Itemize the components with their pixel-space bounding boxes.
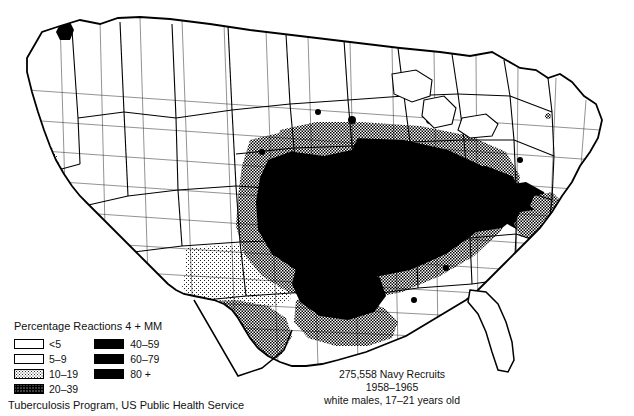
legend-label-80plus: 80 + (130, 368, 151, 380)
legend-column-left: <5 5–9 10–19 20–39 (14, 337, 78, 395)
legend-label-60-79: 60–79 (130, 353, 159, 365)
recruit-caption: 275,558 Navy Recruits 1958–1965 white ma… (272, 368, 512, 407)
legend-swatch-60-79 (94, 354, 124, 364)
recruit-caption-line-2: 1958–1965 (272, 381, 512, 394)
legend-item-20-39: 20–39 (14, 382, 78, 395)
legend-item-lt5: <5 (14, 337, 78, 350)
county-spot-alabama (411, 297, 417, 303)
recruit-caption-line-1: 275,558 Navy Recruits (272, 368, 512, 381)
legend-swatch-10-19 (14, 369, 44, 379)
county-spot-georgia (443, 265, 449, 271)
county-spot-new-york (545, 113, 551, 119)
legend-swatch-40-59 (94, 339, 124, 349)
legend-heading: Percentage Reactions 4 + MM (14, 320, 204, 332)
legend: Percentage Reactions 4 + MM <5 5–9 10–19 (14, 320, 204, 395)
histoplasmin-map-page: HISTOPLASMIN H–42 1:100 (0, 0, 634, 416)
legend-swatch-20-39 (14, 384, 44, 394)
legend-item-40-59: 40–59 (94, 337, 159, 350)
source-attribution: Tuberculosis Program, US Public Health S… (8, 399, 244, 411)
county-spot-carolina (462, 252, 470, 260)
legend-swatch-80plus (94, 369, 124, 379)
legend-item-10-19: 10–19 (14, 367, 78, 380)
county-spot-pennsylvania (517, 157, 523, 163)
county-spot-minnesota (315, 109, 321, 115)
legend-label-lt5: <5 (49, 338, 61, 350)
legend-item-5-9: 5–9 (14, 352, 78, 365)
legend-label-20-39: 20–39 (49, 383, 78, 395)
legend-item-60-79: 60–79 (94, 352, 159, 365)
legend-item-80plus: 80 + (94, 367, 159, 380)
legend-label-40-59: 40–59 (130, 338, 159, 350)
legend-swatch-lt5 (14, 339, 44, 349)
legend-label-10-19: 10–19 (49, 368, 78, 380)
recruit-caption-line-3: white males, 17–21 years old (272, 394, 512, 407)
legend-column-right: 40–59 60–79 80 + (94, 337, 159, 395)
legend-swatch-5-9 (14, 354, 44, 364)
legend-label-5-9: 5–9 (49, 353, 67, 365)
